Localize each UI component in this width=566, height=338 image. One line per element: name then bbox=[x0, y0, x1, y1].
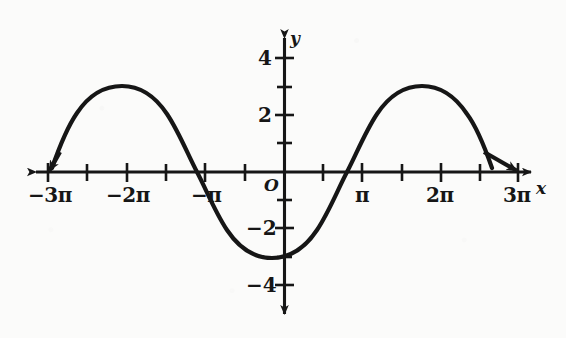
origin-label: O bbox=[264, 177, 279, 194]
coordinate-plane-svg bbox=[0, 0, 566, 338]
y-axis-label: y bbox=[290, 30, 300, 47]
x-tick-label-neg-2pi: −2π bbox=[106, 185, 150, 205]
graph-figure: −3π −2π −π π 2π 3π 4 2 −2 −4 x y O bbox=[0, 0, 566, 338]
x-tick-label-3pi: 3π bbox=[503, 185, 531, 205]
y-tick-label-neg-4: −4 bbox=[246, 275, 277, 295]
y-tick-label-4: 4 bbox=[258, 48, 272, 68]
x-axis-label: x bbox=[536, 180, 546, 197]
x-tick-label-neg-pi: −π bbox=[191, 185, 221, 205]
x-tick-label-2pi: 2π bbox=[426, 185, 454, 205]
x-tick-label-pi: π bbox=[355, 185, 369, 205]
y-tick-label-2: 2 bbox=[258, 105, 272, 125]
y-tick-label-neg-2: −2 bbox=[246, 218, 277, 238]
x-tick-label-neg-3pi: −3π bbox=[28, 185, 72, 205]
